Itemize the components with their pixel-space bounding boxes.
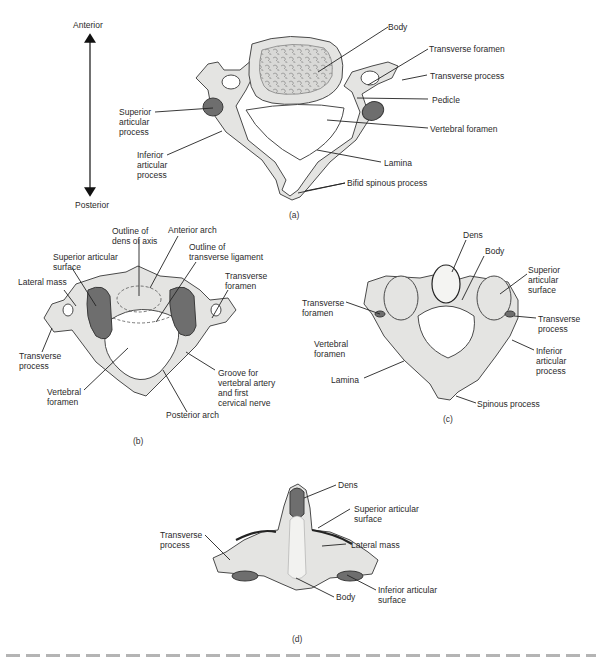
b-groove-label: Groove for vertebral artery and first ce… xyxy=(218,368,275,408)
a-transverse-foramen-label: Transverse foramen xyxy=(429,44,505,54)
a-vertebral-foramen-label: Vertebral foramen xyxy=(430,124,498,134)
a-lamina-label: Lamina xyxy=(384,158,412,168)
d-lateral-mass-label: Lateral mass xyxy=(351,540,400,550)
c-inferior-articular-process-label: Inferior articular process xyxy=(536,346,566,376)
posterior-label: Posterior xyxy=(75,200,109,210)
a-superior-articular-process-label: Superior articular process xyxy=(119,107,151,137)
c-transverse-foramen-label: Transverse foramen xyxy=(302,298,344,318)
a-transverse-process-label: Transverse process xyxy=(430,71,504,81)
cropped-figure-caption xyxy=(0,652,603,658)
d-dens-label: Dens xyxy=(338,480,358,490)
b-lateral-mass-label: Lateral mass xyxy=(18,277,67,287)
panel-a-caption: (a) xyxy=(289,210,299,220)
panel-d-axis xyxy=(213,484,378,590)
c-dens-label: Dens xyxy=(463,230,483,240)
b-vertebral-foramen-label: Vertebral foramen xyxy=(47,387,81,407)
c-vertebral-foramen-label: Vertebral foramen xyxy=(314,339,348,359)
b-posterior-arch-label: Posterior arch xyxy=(166,410,219,420)
d-body-label: Body xyxy=(336,592,355,602)
c-body-label: Body xyxy=(485,246,504,256)
b-transverse-foramen-label: Transverse foramen xyxy=(225,271,267,291)
d-transverse-process-label: Transverse process xyxy=(160,530,202,550)
a-body-label: Body xyxy=(388,22,407,32)
b-outline-transverse-ligament-label: Outline of transverse ligament xyxy=(189,242,263,262)
panel-a-vertebra xyxy=(196,36,398,200)
panel-c-caption: (c) xyxy=(443,414,453,424)
a-bifid-spinous-process-label: Bifid spinous process xyxy=(347,178,427,188)
c-spinous-process-label: Spinous process xyxy=(477,399,540,409)
panel-b-caption: (b) xyxy=(133,436,143,446)
d-superior-articular-surface-label: Superior articular surface xyxy=(354,504,419,524)
c-transverse-process-label: Transverse process xyxy=(538,314,580,334)
vertebrae-illustration xyxy=(0,0,603,658)
panel-c-axis xyxy=(364,265,518,400)
b-transverse-process-label: Transverse process xyxy=(19,351,61,371)
panel-b-atlas xyxy=(44,266,236,396)
c-superior-articular-surface-label: Superior articular surface xyxy=(528,265,560,295)
panel-d-caption: (d) xyxy=(292,634,302,644)
anterior-label: Anterior xyxy=(73,20,103,30)
d-inferior-articular-surface-label: Inferior articular surface xyxy=(378,585,437,605)
b-outline-dens-label: Outline of dens of axis xyxy=(112,226,157,246)
a-pedicle-label: Pedicle xyxy=(432,95,460,105)
b-superior-articular-surface-label: Superior articular surface xyxy=(53,252,118,272)
b-anterior-arch-label: Anterior arch xyxy=(168,225,217,235)
a-inferior-articular-process-label: Inferior articular process xyxy=(137,150,167,180)
c-lamina-label: Lamina xyxy=(331,375,359,385)
